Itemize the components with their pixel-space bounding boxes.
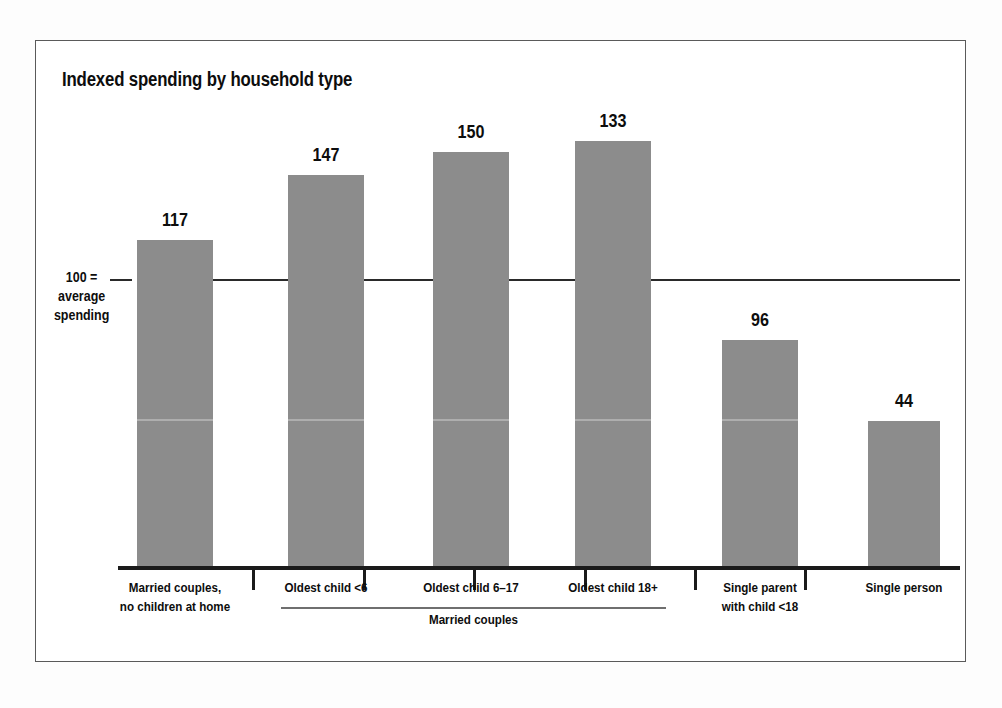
category-label-line1: Oldest child 18+ xyxy=(555,578,672,597)
category-label: Oldest child 18+ xyxy=(555,578,672,597)
category-label: Single person xyxy=(846,578,963,597)
bar xyxy=(868,421,940,568)
bar-value-label: 147 xyxy=(277,144,376,166)
category-label-line1: Single parent xyxy=(702,578,819,597)
category-label-line2: with child <18 xyxy=(702,597,819,616)
group-bracket-label: Married couples xyxy=(308,612,639,627)
bar-chart-plot-area: 100 = average spending 1171471501339644 … xyxy=(0,0,1002,708)
axis-tick xyxy=(252,568,255,590)
bar-value-label: 44 xyxy=(855,390,954,412)
scan-artifact-band xyxy=(118,419,960,421)
bar xyxy=(433,152,509,568)
group-bracket-line xyxy=(281,607,666,609)
category-label-line1: Oldest child <6 xyxy=(268,578,385,597)
bar-value-label: 117 xyxy=(126,209,225,231)
bar xyxy=(137,240,213,568)
category-label-line1: Married couples, xyxy=(117,578,234,597)
category-label-line2: no children at home xyxy=(117,597,234,616)
reference-line-label-line1: 100 = xyxy=(53,268,110,287)
category-label: Married couples,no children at home xyxy=(117,578,234,616)
category-label-line1: Single person xyxy=(846,578,963,597)
reference-line-label: 100 = average spending xyxy=(53,268,110,325)
category-label-line1: Oldest child 6–17 xyxy=(413,578,530,597)
reference-line-connector xyxy=(110,279,132,281)
reference-line-label-line2: average xyxy=(53,287,110,306)
axis-tick xyxy=(694,568,697,590)
bar xyxy=(722,340,798,568)
x-axis-baseline xyxy=(118,566,960,570)
scanned-page: Indexed spending by household type 100 =… xyxy=(0,0,1002,708)
category-label: Oldest child 6–17 xyxy=(413,578,530,597)
bar-value-label: 150 xyxy=(422,121,521,143)
category-label: Single parentwith child <18 xyxy=(702,578,819,616)
bar-value-label: 96 xyxy=(711,309,810,331)
bar-value-label: 133 xyxy=(564,110,663,132)
category-label: Oldest child <6 xyxy=(268,578,385,597)
bar xyxy=(288,175,364,568)
reference-line-label-line3: spending xyxy=(53,306,110,325)
bar xyxy=(575,141,651,568)
reference-line-100 xyxy=(140,279,960,281)
